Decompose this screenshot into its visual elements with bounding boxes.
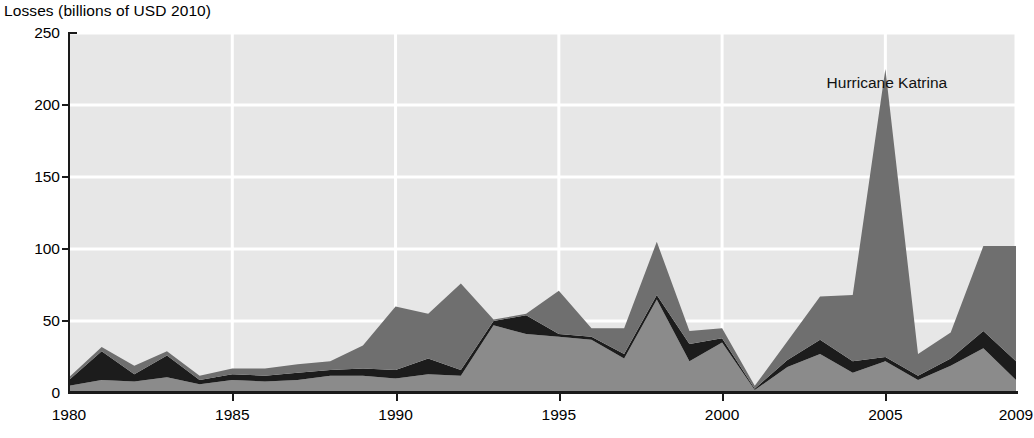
- x-tick-label: 2005: [850, 406, 920, 424]
- y-tick-mark: [62, 176, 70, 178]
- annotation-hurricane-katrina: Hurricane Katrina: [827, 74, 948, 92]
- x-tick-mark: [722, 394, 724, 401]
- x-tick-mark: [559, 394, 561, 401]
- x-tick-mark: [396, 394, 398, 401]
- y-axis-line: [68, 32, 70, 394]
- x-tick-label: 2000: [687, 406, 757, 424]
- y-tick-mark: [62, 248, 70, 250]
- y-tick-label: 200: [4, 96, 60, 114]
- y-tick-label: 0: [4, 384, 60, 402]
- x-tick-label: 1995: [524, 406, 594, 424]
- y-tick-label: 250: [4, 24, 60, 42]
- y-tick-mark: [62, 104, 70, 106]
- x-tick-label: 2009: [981, 406, 1034, 424]
- x-tick-label: 1990: [361, 406, 431, 424]
- y-tick-label: 100: [4, 240, 60, 258]
- x-tick-label: 1980: [34, 406, 104, 424]
- y-tick-label: 50: [4, 312, 60, 330]
- y-tick-mark: [62, 320, 70, 322]
- x-tick-mark: [885, 394, 887, 401]
- y-axis-tick-labels: 050100150200250: [0, 0, 60, 438]
- chart-figure: Losses (billions of USD 2010) 0501001502…: [0, 0, 1034, 438]
- x-axis-line: [68, 391, 1018, 394]
- x-tick-label: 1985: [197, 406, 267, 424]
- y-tick-label: 150: [4, 168, 60, 186]
- x-tick-mark: [232, 394, 234, 401]
- y-axis-top-cap: [68, 32, 77, 34]
